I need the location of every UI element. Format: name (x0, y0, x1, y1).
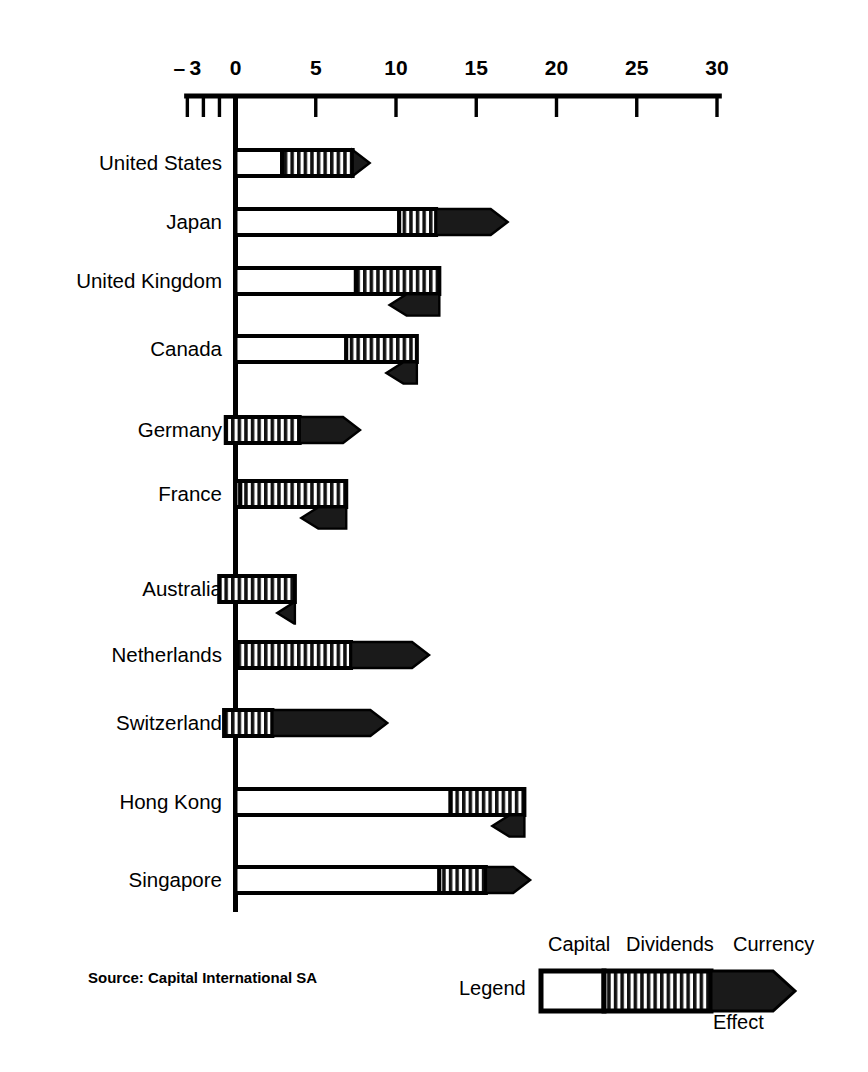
bar-group (236, 867, 531, 893)
bar-segment-capital (236, 789, 451, 815)
legend-label-effect: Effect (713, 1011, 764, 1034)
legend-swatch-dividends (604, 971, 711, 1011)
bar-segment-dividends (439, 867, 486, 893)
bar-segment-capital (236, 209, 400, 235)
bar-segment-dividends (451, 789, 525, 815)
bar-segment-capital (236, 268, 356, 294)
bar-segment-dividends (282, 150, 353, 176)
bar-segment-capital (236, 336, 347, 362)
bar-segment-currency-positive (300, 417, 360, 443)
bar-segment-capital (236, 867, 440, 893)
bars-group (219, 150, 530, 893)
bar-segment-currency-negative (301, 507, 346, 528)
legend-label-currency: Currency (733, 933, 814, 956)
bar-group (236, 150, 370, 176)
bar-segment-currency-positive (351, 642, 429, 668)
legend-label-capital: Capital (548, 933, 610, 956)
bar-group (226, 417, 360, 443)
legend-label-dividends: Dividends (626, 933, 714, 956)
legend-title: Legend (459, 977, 526, 1000)
bar-segment-dividends (399, 209, 436, 235)
bar-segment-currency-positive (272, 710, 387, 736)
legend-swatch-currency-effect (711, 971, 795, 1011)
bar-segment-dividends (240, 481, 346, 507)
bar-segment-dividends (224, 710, 272, 736)
legend-swatch-capital (541, 971, 604, 1011)
bar-group (236, 209, 508, 235)
bar-segment-dividends (219, 576, 294, 602)
bar-group (236, 336, 417, 384)
bar-group (224, 710, 387, 736)
bar-group (236, 268, 440, 316)
bar-group (219, 576, 294, 624)
legend-swatch-group (541, 971, 795, 1011)
bar-group (236, 481, 347, 529)
bar-segment-currency-positive (436, 209, 508, 235)
source-note: Source: Capital International SA (88, 969, 317, 986)
bar-segment-currency-positive (486, 867, 530, 893)
bar-group (236, 642, 430, 668)
bar-segment-dividends (346, 336, 417, 362)
bar-segment-currency-positive (353, 150, 370, 176)
bar-group (236, 789, 525, 837)
bar-segment-dividends (226, 417, 300, 443)
plot-area (0, 0, 868, 1072)
bar-segment-dividends (237, 642, 351, 668)
bar-segment-currency-negative (390, 294, 440, 315)
bar-segment-dividends (356, 268, 439, 294)
chart-container: – 3051015202530 United StatesJapanUnited… (0, 0, 868, 1072)
bar-segment-currency-negative (386, 362, 416, 383)
bar-segment-currency-negative (277, 602, 295, 623)
bar-segment-currency-negative (492, 815, 524, 836)
bar-segment-capital (236, 150, 283, 176)
